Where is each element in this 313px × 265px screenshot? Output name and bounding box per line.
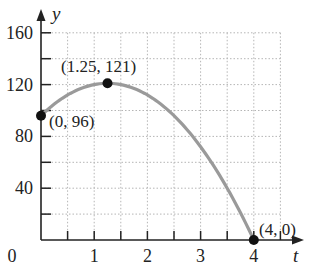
y-axis-label: y [50,3,61,24]
y-tick-label: 120 [6,75,33,95]
chart-canvas: 012344080120160 y t (1.25, 121) (0, 96) … [0,0,313,265]
annotation-y-intercept: (0, 96) [49,112,94,131]
x-tick-label: 0 [8,246,17,265]
x-axis-label: t [293,245,299,265]
data-point-marker [103,78,113,88]
x-tick-label: 4 [249,246,258,265]
y-axis-arrow-icon [37,9,46,21]
y-tick-label: 80 [15,126,33,146]
annotation-vertex: (1.25, 121) [61,57,136,76]
x-tick-label: 1 [90,246,99,265]
y-tick-label: 40 [15,178,33,198]
x-tick-label: 3 [196,246,205,265]
y-tick-label: 160 [6,23,33,43]
data-point-marker [36,111,46,121]
annotation-x-intercept: (4, 0) [259,220,296,239]
x-tick-label: 2 [143,246,152,265]
data-point-marker [249,235,259,245]
